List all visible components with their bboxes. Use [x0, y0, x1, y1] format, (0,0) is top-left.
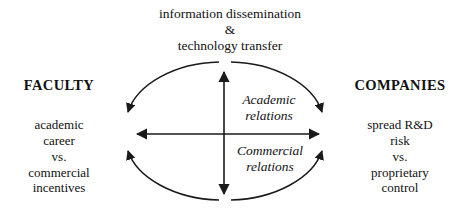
- companies-tension-line-3: vs.: [341, 149, 459, 165]
- companies-tension-line-1: spread R&D: [341, 117, 459, 133]
- arc-bottom-left: [128, 151, 219, 200]
- top-caption-line-3: technology transfer: [110, 38, 350, 54]
- faculty-tension-line-3: vs.: [0, 149, 118, 165]
- companies-tension-line-2: risk: [341, 133, 459, 149]
- academic-relations-line-2: relations: [228, 108, 310, 124]
- companies-heading: COMPANIES: [341, 77, 459, 94]
- faculty-tension-line-4: commercial: [0, 165, 118, 181]
- commercial-relations-line-1: Commercial: [224, 143, 316, 159]
- diagram-canvas: information dissemination & technology t…: [0, 0, 459, 224]
- companies-tension-line-5: control: [341, 180, 459, 196]
- faculty-heading: FACULTY: [0, 77, 118, 94]
- academic-relations-line-1: Academic: [228, 92, 310, 108]
- commercial-relations-line-2: relations: [224, 159, 316, 175]
- companies-tension-line-4: proprietary: [341, 165, 459, 181]
- arc-top-left: [128, 62, 219, 112]
- faculty-tension-line-2: career: [0, 133, 118, 149]
- top-caption-line-1: information dissemination: [110, 6, 350, 22]
- faculty-tension-list: academic career vs. commercial incentive…: [0, 117, 118, 196]
- companies-tension-list: spread R&D risk vs. proprietary control: [341, 117, 459, 196]
- commercial-relations-label: Commercial relations: [224, 143, 316, 175]
- faculty-tension-line-5: incentives: [0, 180, 118, 196]
- faculty-tension-line-1: academic: [0, 117, 118, 133]
- academic-relations-label: Academic relations: [228, 92, 310, 124]
- top-caption-line-2: &: [110, 22, 350, 38]
- top-caption: information dissemination & technology t…: [110, 6, 350, 54]
